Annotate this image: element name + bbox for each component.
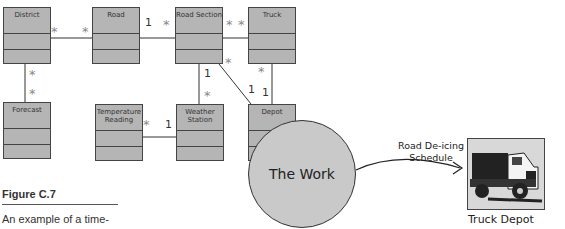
- attributes-compartment: [96, 131, 142, 147]
- class-name: Road: [93, 8, 139, 34]
- multiplicity: *: [238, 17, 245, 32]
- truck-depot-label: Truck Depot: [468, 213, 534, 226]
- multiplicity: *: [226, 17, 233, 32]
- attributes-compartment: [93, 34, 139, 50]
- multiplicity: 1: [262, 86, 269, 99]
- flow-label-line2: Schedule: [398, 152, 464, 164]
- class-name: Truck: [249, 8, 295, 34]
- class-temperature-reading: Temperature Reading: [95, 104, 143, 161]
- class-name: District: [4, 8, 50, 34]
- multiplicity: 1: [165, 118, 172, 131]
- multiplicity: *: [143, 117, 150, 132]
- multiplicity: *: [225, 55, 232, 70]
- flow-label: Road De-icing Schedule: [398, 140, 464, 164]
- multiplicity: 1: [248, 83, 255, 96]
- attributes-compartment: [4, 34, 50, 50]
- attributes-compartment: [249, 34, 295, 50]
- class-road: Road: [92, 7, 140, 64]
- multiplicity: 1: [145, 16, 152, 29]
- figure-label: Figure C.7: [2, 188, 56, 200]
- figure-caption: An example of a time-: [2, 213, 109, 225]
- multiplicity: *: [204, 88, 211, 103]
- class-truck: Truck: [248, 7, 296, 64]
- truck-icon: [467, 138, 545, 210]
- class-name: Forecast: [4, 103, 50, 129]
- multiplicity: *: [29, 86, 36, 101]
- multiplicity: *: [29, 67, 36, 82]
- the-work-circle: The Work: [248, 120, 356, 228]
- class-weather-station: Weather Station: [176, 104, 224, 161]
- class-name: Weather Station: [177, 105, 223, 131]
- class-district: District: [3, 7, 51, 64]
- multiplicity: *: [82, 24, 89, 39]
- class-road-section: Road Section: [175, 7, 223, 64]
- attributes-compartment: [4, 129, 50, 145]
- class-name: Road Section: [176, 8, 222, 34]
- figure-divider: [2, 204, 118, 205]
- multiplicity: 1: [204, 67, 211, 80]
- multiplicity: *: [51, 24, 58, 39]
- class-forecast: Forecast: [3, 102, 51, 159]
- attributes-compartment: [176, 34, 222, 50]
- class-name: Temperature Reading: [96, 105, 142, 131]
- flow-label-line1: Road De-icing: [398, 140, 464, 152]
- multiplicity: *: [258, 64, 265, 79]
- attributes-compartment: [177, 131, 223, 147]
- the-work-label: The Work: [269, 166, 335, 182]
- multiplicity: *: [163, 17, 170, 32]
